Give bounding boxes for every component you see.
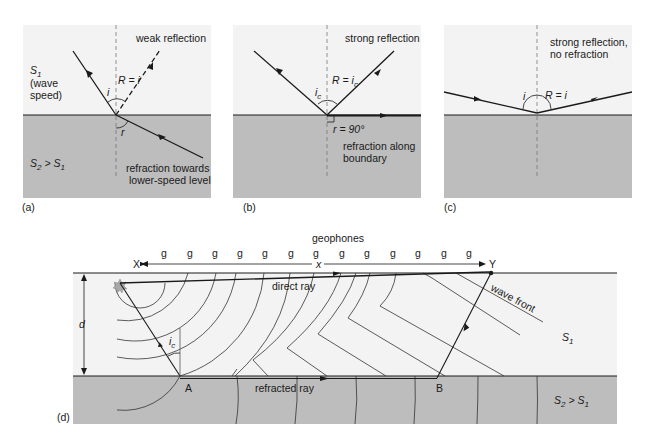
lower-layer: [73, 376, 617, 424]
geophone: g: [212, 247, 218, 259]
point-Y-label: Y: [489, 258, 496, 270]
distance-x-label: x: [315, 258, 322, 270]
receiver-dot: [489, 271, 494, 276]
point-B-label: B: [436, 382, 443, 394]
angle-R-label: R = i: [118, 74, 141, 86]
panel-a: weak reflection R = i i r S1 (wave speed…: [22, 25, 211, 213]
panel-tag: (a): [22, 201, 35, 213]
lower-layer: [444, 115, 632, 198]
caption-label-line2: no refraction: [550, 48, 609, 60]
angle-R-label: R = i: [545, 89, 568, 101]
panel-c: strong reflection, no refraction i R = i…: [444, 25, 632, 213]
panel-tag: (d): [57, 411, 70, 423]
refraction-label-line2: boundary: [343, 152, 388, 164]
caption-label: weak reflection: [135, 32, 206, 44]
geophone: g: [364, 247, 370, 259]
caption-label-line1: strong reflection,: [550, 36, 628, 48]
arrow-icon: [479, 261, 486, 267]
geophone: g: [262, 247, 268, 259]
panel-tag: (b): [243, 201, 256, 213]
lower-layer: [233, 115, 421, 198]
point-A-label: A: [185, 382, 192, 394]
panel-b: strong reflection R = ic ic r = 90° refr…: [233, 25, 421, 213]
seismic-refraction-figure: weak reflection R = i i r S1 (wave speed…: [0, 0, 650, 444]
panel-d: geophones g g g g g g g g g g g g g X Y …: [57, 232, 617, 424]
refraction-label-line1: refraction towards: [126, 162, 209, 174]
refraction-label-line1: refraction along: [343, 140, 416, 152]
geophone: g: [288, 247, 294, 259]
geophone: g: [441, 247, 447, 259]
geophone: g: [237, 247, 243, 259]
refracted-ray-label: refracted ray: [255, 382, 315, 394]
direct-ray-label: direct ray: [272, 280, 316, 292]
angle-r-label: r: [121, 126, 125, 138]
arrow-icon: [141, 261, 148, 267]
point-X-label: X: [133, 258, 140, 270]
panel-tag: (c): [444, 201, 456, 213]
geophone: g: [339, 247, 345, 259]
wave-label-line2: speed): [30, 89, 62, 101]
geophone: g: [415, 247, 421, 259]
wave-label-line1: (wave: [30, 77, 58, 89]
caption-label: strong reflection: [345, 32, 420, 44]
geophones-title: geophones: [312, 232, 364, 244]
geophone: g: [161, 247, 167, 259]
geophone: g: [390, 247, 396, 259]
geophone: g: [466, 247, 472, 259]
refraction-label-line2: lower-speed level: [129, 174, 211, 186]
angle-r-label: r = 90°: [333, 123, 364, 135]
geophone: g: [187, 247, 193, 259]
upper-layer: [73, 273, 617, 376]
